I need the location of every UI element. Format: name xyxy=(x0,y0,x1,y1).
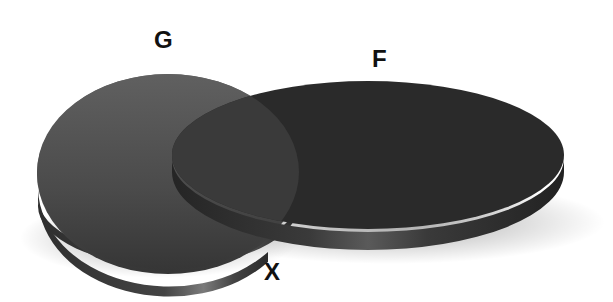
intersection-label-x: X xyxy=(264,260,280,284)
set-label-g: G xyxy=(154,28,173,52)
venn-diagram: G F X xyxy=(0,0,613,302)
venn-graphic xyxy=(0,0,613,302)
set-label-f: F xyxy=(372,47,387,71)
